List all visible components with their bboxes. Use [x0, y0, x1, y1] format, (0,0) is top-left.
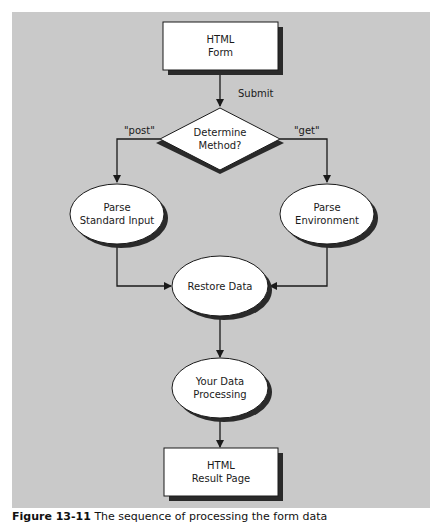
node-parse-environment: Parse Environment — [280, 184, 378, 248]
figure-caption-text: The sequence of processing the form data — [94, 510, 327, 523]
edge-decision-to-parse-env — [280, 139, 327, 182]
edge-decision-to-parse-stdin — [117, 139, 160, 182]
figure-number: Figure 13-11 — [12, 510, 91, 523]
node-restore-data: Restore Data — [172, 256, 272, 320]
node-your-data-processing: Your Data Processing — [172, 358, 272, 422]
svg-text:Method?: Method? — [199, 140, 242, 151]
svg-text:Processing: Processing — [193, 389, 246, 400]
svg-text:Determine: Determine — [194, 127, 247, 138]
svg-text:HTML: HTML — [207, 460, 235, 471]
svg-text:Form: Form — [208, 47, 233, 58]
svg-text:Environment: Environment — [295, 215, 359, 226]
edge-parse-stdin-to-restore — [117, 244, 171, 286]
node-html-form: HTML Form — [163, 22, 283, 75]
edge-parse-env-to-restore — [270, 244, 327, 286]
node-parse-standard-input: Parse Standard Input — [70, 184, 168, 248]
figure-caption: Figure 13-11 The sequence of processing … — [12, 510, 327, 523]
svg-text:Parse: Parse — [103, 202, 130, 213]
node-determine-method: Determine Method? — [156, 108, 284, 174]
svg-text:Standard Input: Standard Input — [80, 215, 155, 226]
svg-text:Your Data: Your Data — [195, 376, 244, 387]
edge-label-post: "post" — [124, 125, 155, 136]
edge-label-get: "get" — [294, 125, 320, 136]
svg-text:Parse: Parse — [313, 202, 340, 213]
edge-label-submit: Submit — [238, 88, 274, 99]
svg-text:Result Page: Result Page — [192, 473, 250, 484]
node-html-result-page: HTML Result Page — [164, 448, 283, 501]
svg-text:Restore Data: Restore Data — [188, 281, 253, 292]
svg-text:HTML: HTML — [207, 34, 235, 45]
